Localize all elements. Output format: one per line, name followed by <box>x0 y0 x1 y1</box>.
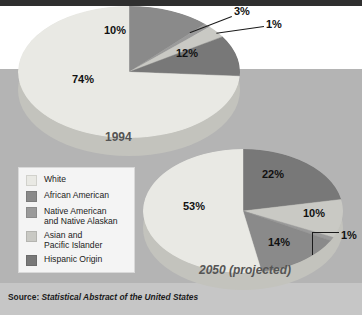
legend-item-native-american[interactable]: Native American and Native Alaskan <box>26 206 128 226</box>
legend-item-white[interactable]: White <box>26 174 128 186</box>
legend-label-asian-pacific-islander: Asian and Pacific Islander <box>44 230 102 250</box>
pie-1994-label-white: 74% <box>72 73 94 85</box>
pie-1994-label-african: 12% <box>176 47 198 59</box>
pie-2050-leader-native <box>312 232 339 233</box>
pie-2050-label-white: 53% <box>183 200 205 212</box>
legend-item-asian-pacific-islander[interactable]: Asian and Pacific Islander <box>26 230 128 250</box>
pie-chart-figure: 74% 10% 12% 3% 1% 1994 53% 22% 10% 1% 14… <box>0 0 362 315</box>
legend-label-hispanic-origin: Hispanic Origin <box>44 254 102 264</box>
pie-2050-label-asian: 10% <box>303 207 325 219</box>
pie-1994-label-asian: 3% <box>234 5 250 17</box>
source-title: Statistical Abstract of the United State… <box>42 292 199 302</box>
legend-label-african-american: African American <box>44 190 109 200</box>
pie-2050-label-hispanic: 22% <box>262 168 284 180</box>
pie-2050-leader-native-stem <box>312 233 313 255</box>
pie-1994-year-label: 1994 <box>105 130 132 144</box>
pie-1994-label-hispanic: 10% <box>104 24 126 36</box>
source-note: Source: Statistical Abstract of the Unit… <box>8 292 198 302</box>
legend: White African American Native American a… <box>18 167 135 273</box>
legend-label-native-american: Native American and Native Alaskan <box>44 206 118 226</box>
legend-swatch-native-american <box>26 207 37 218</box>
pie-1994-label-native: 1% <box>266 18 282 30</box>
source-prefix: Source: <box>8 292 39 302</box>
legend-swatch-african-american <box>26 191 37 202</box>
legend-swatch-hispanic-origin <box>26 255 37 266</box>
pie-2050-label-african: 14% <box>268 236 290 248</box>
legend-item-african-american[interactable]: African American <box>26 190 128 202</box>
legend-swatch-white <box>26 175 37 186</box>
legend-label-white: White <box>44 174 66 184</box>
legend-swatch-asian-pacific-islander <box>26 231 37 242</box>
pie-2050-label-native: 1% <box>341 229 357 241</box>
legend-item-hispanic-origin[interactable]: Hispanic Origin <box>26 254 128 266</box>
pie-2050-year-label: 2050 (projected) <box>199 263 291 277</box>
